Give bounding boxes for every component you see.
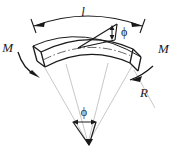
moment-left xyxy=(18,52,40,78)
arc-length-label: l xyxy=(81,4,85,19)
radius-line-right xyxy=(90,66,132,140)
figure-canvas: Curved beam in pure bending l xyxy=(0,0,176,151)
beam-inner-arc xyxy=(45,54,130,67)
angle-top-label: ϕ xyxy=(121,25,127,39)
angle-top xyxy=(78,24,117,48)
angle-top-closing-edge xyxy=(115,24,117,40)
curved-beam-diagram: Curved beam in pure bending l xyxy=(0,0,176,151)
moment-right-label: M xyxy=(157,41,170,56)
radius-line-left xyxy=(45,68,86,140)
radius-label: R xyxy=(139,85,148,100)
center-of-curvature-marker xyxy=(85,139,93,146)
moment-right xyxy=(130,66,153,82)
arc-length-arrowhead-left xyxy=(34,22,45,27)
arc-length-dimension xyxy=(31,16,145,33)
radius-line-inner-right xyxy=(89,63,108,139)
angle-bottom-label: ϕ xyxy=(81,105,87,119)
arc-length-arrowhead-right xyxy=(131,22,142,27)
construction-lines xyxy=(45,63,155,140)
moment-right-arc xyxy=(130,66,153,80)
angle-top-arrowhead-down xyxy=(110,35,115,40)
beam-depth-face-right xyxy=(138,57,141,71)
moment-left-label: M xyxy=(1,40,14,55)
